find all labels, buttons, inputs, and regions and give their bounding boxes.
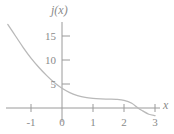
y-tick-label-5: 5 — [38, 79, 56, 90]
y-tick-label-15: 15 — [38, 31, 56, 42]
x-tick-label-3: 3 — [145, 117, 165, 128]
x-tick-label-neg1: -1 — [21, 117, 41, 128]
function-curve — [8, 24, 155, 115]
x-tick-label-0: 0 — [52, 117, 72, 128]
x-tick-label-2: 2 — [114, 117, 134, 128]
x-axis-title: x — [163, 99, 168, 111]
plot-canvas — [0, 0, 174, 134]
y-tick-label-10: 10 — [38, 55, 56, 66]
function-graph-figure: j(x) x 15 10 5 -1 0 1 2 3 — [0, 0, 174, 134]
y-axis-title: j(x) — [51, 4, 68, 16]
x-tick-label-1: 1 — [83, 117, 103, 128]
